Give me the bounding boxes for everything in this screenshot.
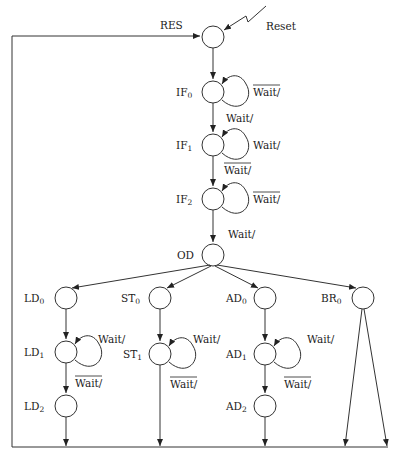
trans-if0-self: Wait/	[253, 86, 281, 98]
state-diagram: RES Reset IF0 IF1 IF2 OD Wait/ Wait/ Wai…	[0, 0, 398, 457]
state-ld1	[55, 341, 77, 363]
state-od	[202, 244, 224, 266]
label-od: OD	[177, 249, 194, 261]
state-ad2	[254, 395, 276, 417]
label-if1: IF1	[176, 139, 192, 153]
state-res	[202, 26, 224, 48]
state-ad1	[254, 343, 276, 365]
state-st0	[149, 287, 171, 309]
trans-ld1-self: Wait/	[98, 333, 126, 345]
label-ad0: AD0	[225, 292, 247, 306]
reset-label: Reset	[266, 20, 297, 32]
label-ld0: LD0	[24, 292, 44, 306]
reset-signal-icon	[224, 6, 266, 30]
label-st0: ST0	[121, 292, 140, 306]
label-if0: IF0	[176, 86, 192, 100]
state-if0	[202, 81, 224, 103]
trans-if2-od: Wait/	[228, 228, 256, 240]
label-ld2: LD2	[24, 400, 44, 414]
state-ld2	[55, 395, 77, 417]
label-br0: BR0	[321, 292, 342, 306]
trans-ld1-ld2: Wait/	[75, 377, 103, 389]
state-if1	[202, 134, 224, 156]
state-ld0	[55, 287, 77, 309]
state-ad0	[254, 287, 276, 309]
label-st1: ST1	[123, 348, 142, 362]
trans-st1-self: Wait/	[193, 333, 221, 345]
trans-st1-exit: Wait/	[170, 378, 198, 390]
state-br0	[352, 287, 374, 309]
label-ad2: AD2	[225, 400, 247, 414]
trans-if0-if1: Wait/	[226, 112, 254, 124]
return-bus	[12, 36, 388, 447]
label-if2: IF2	[176, 193, 192, 207]
label-ad1: AD1	[225, 348, 247, 362]
trans-ad1-ad2: Wait/	[284, 378, 312, 390]
state-if2	[202, 188, 224, 210]
trans-if1-self: Wait/	[253, 139, 281, 151]
trans-ad1-self: Wait/	[307, 333, 335, 345]
res-label: RES	[160, 19, 183, 31]
state-st1	[149, 343, 171, 365]
trans-if2-self: Wait/	[253, 193, 281, 205]
trans-if1-if2: Wait/	[224, 164, 252, 176]
label-ld1: LD1	[24, 346, 44, 360]
